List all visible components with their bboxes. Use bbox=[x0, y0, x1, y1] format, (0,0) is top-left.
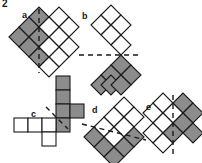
figures-canvas bbox=[0, 0, 202, 163]
figure-page: 2 bbox=[0, 0, 202, 163]
figure-a bbox=[9, 7, 79, 77]
figure-c-unshaded-cells bbox=[14, 118, 56, 146]
figure-label-c: c bbox=[31, 110, 36, 119]
figure-c-shaded-cells bbox=[56, 76, 84, 132]
figure-b bbox=[79, 5, 141, 95]
figure-c bbox=[14, 76, 84, 146]
figure-label-d: d bbox=[92, 106, 98, 115]
figure-b-shaded-cells bbox=[91, 55, 141, 95]
figure-label-e: e bbox=[146, 103, 151, 112]
figure-label-a: a bbox=[22, 11, 27, 20]
figure-a-shaded-cells bbox=[9, 7, 49, 67]
figure-e bbox=[143, 93, 202, 155]
figure-label-b: b bbox=[82, 12, 88, 21]
figure-b-unshaded-cells bbox=[91, 5, 131, 55]
